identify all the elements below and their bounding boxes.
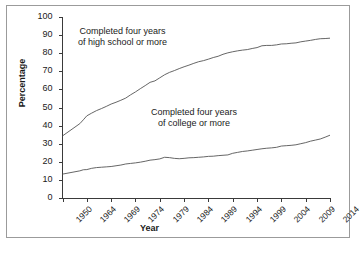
- y-axis-title: Percentage: [17, 43, 27, 123]
- y-tick-label: 0: [27, 192, 53, 202]
- x-axis-title: Year: [140, 223, 159, 233]
- high-school-annotation-line2: of high school or more: [78, 37, 167, 48]
- y-tick-label: 20: [27, 156, 53, 166]
- y-tick-label: 50: [27, 102, 53, 112]
- y-tick-label: 60: [27, 83, 53, 93]
- y-tick-label: 10: [27, 174, 53, 184]
- college-annotation-line2: of college or more: [151, 118, 237, 129]
- high-school-annotation: Completed four years of high school or m…: [78, 26, 167, 48]
- college-annotation: Completed four years of college or more: [151, 107, 237, 129]
- y-tick-label: 80: [27, 47, 53, 57]
- y-tick-label: 30: [27, 138, 53, 148]
- y-tick-label: 40: [27, 120, 53, 130]
- college-annotation-line1: Completed four years: [151, 107, 237, 118]
- y-tick-label: 90: [27, 29, 53, 39]
- y-tick-label: 100: [27, 11, 53, 21]
- high-school-annotation-line1: Completed four years: [78, 26, 167, 37]
- y-tick-label: 70: [27, 65, 53, 75]
- series-line: [63, 135, 331, 174]
- y-axis-ticks: [59, 18, 63, 199]
